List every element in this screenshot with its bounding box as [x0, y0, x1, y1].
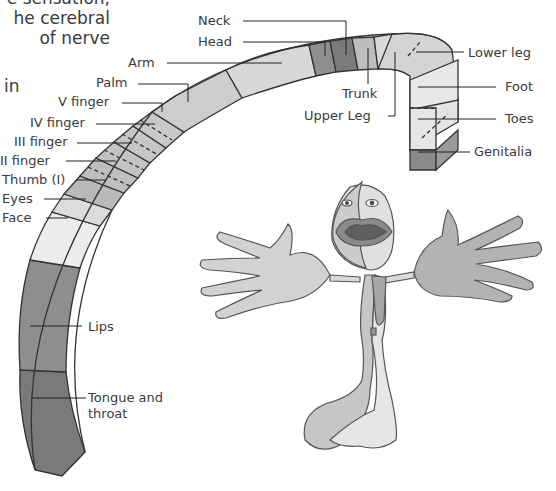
- label-face: Face: [2, 210, 31, 225]
- label-tongue-1: Tongue and: [87, 390, 163, 405]
- label-genitalia: Genitalia: [474, 144, 532, 159]
- left-hand: [200, 224, 330, 318]
- segment-genitalia-front: [410, 150, 436, 170]
- genitalia: [371, 328, 376, 335]
- segment-toes-front: [410, 108, 436, 150]
- right-hand: [414, 210, 542, 302]
- label-iv-finger: IV finger: [30, 115, 86, 130]
- sensory-homunculus-diagram: Neck Head Arm Palm V finger IV finger II…: [0, 0, 556, 491]
- segment-lips: [19, 260, 80, 372]
- label-upper-leg: Upper Leg: [304, 108, 371, 123]
- homunculus-figure: [200, 182, 541, 449]
- label-tongue-2: throat: [88, 406, 127, 421]
- label-head: Head: [198, 34, 232, 49]
- label-lips: Lips: [88, 319, 114, 334]
- label-thumb: Thumb (I): [1, 172, 65, 187]
- label-ii-finger: II finger: [0, 153, 50, 168]
- label-foot: Foot: [505, 79, 533, 94]
- label-arm: Arm: [128, 55, 155, 70]
- label-v-finger: V finger: [58, 94, 110, 109]
- label-neck: Neck: [198, 13, 231, 28]
- label-palm: Palm: [96, 75, 128, 90]
- segment-genitalia-side: [436, 130, 458, 170]
- label-eyes: Eyes: [2, 191, 33, 206]
- label-iii-finger: III finger: [14, 134, 68, 149]
- label-toes: Toes: [504, 111, 534, 126]
- label-trunk: Trunk: [341, 86, 378, 101]
- label-lower-leg: Lower leg: [468, 45, 531, 60]
